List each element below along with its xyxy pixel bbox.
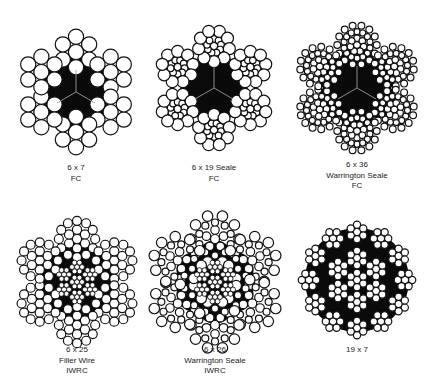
wire (360, 295, 367, 302)
wire (341, 262, 348, 269)
wire (360, 328, 367, 335)
wire (306, 256, 313, 263)
wire (385, 318, 392, 325)
wire (347, 328, 354, 335)
wire (360, 321, 367, 328)
wire (309, 283, 316, 290)
wire (318, 297, 325, 304)
wire (322, 235, 329, 242)
wire (395, 245, 402, 252)
wire (312, 308, 319, 315)
rope-cross-section-19x7 (0, 0, 439, 390)
wire (366, 269, 373, 276)
wire (379, 262, 386, 269)
wire (347, 302, 354, 309)
wire (360, 225, 367, 232)
wire (389, 304, 396, 311)
wire (347, 280, 354, 287)
caption-line: 19 x 7 (287, 345, 427, 356)
wire (333, 241, 340, 248)
wire (405, 283, 412, 290)
wire (389, 256, 396, 263)
caption-19x7: 19 x 7 (287, 345, 427, 356)
wire (379, 284, 386, 291)
wire (366, 291, 373, 298)
wire (360, 273, 367, 280)
wire (318, 249, 325, 256)
wire (302, 283, 309, 290)
wire (374, 312, 381, 319)
wire (328, 291, 335, 298)
wire (401, 297, 408, 304)
wire (341, 284, 348, 291)
wire (347, 258, 354, 265)
wire (326, 312, 333, 319)
wire (398, 270, 405, 277)
wire (381, 241, 388, 248)
wire (347, 225, 354, 232)
wire (302, 270, 309, 277)
wire (405, 270, 412, 277)
wire (347, 232, 354, 239)
wire (360, 251, 367, 258)
wire (374, 229, 381, 236)
wire (328, 269, 335, 276)
wire (333, 324, 340, 331)
